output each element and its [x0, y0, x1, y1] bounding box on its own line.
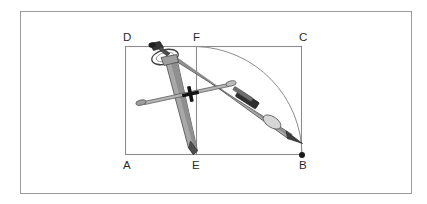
- label-a: A: [123, 159, 131, 171]
- figure-background: [0, 0, 427, 204]
- label-f: F: [193, 31, 200, 43]
- label-e: E: [192, 159, 200, 171]
- label-d: D: [123, 31, 131, 43]
- label-c: C: [299, 31, 307, 43]
- point-b-dot: [299, 152, 305, 158]
- construction-figure: D F C A E B: [0, 0, 427, 204]
- figure-container: D F C A E B: [0, 0, 427, 204]
- label-b: B: [299, 159, 307, 171]
